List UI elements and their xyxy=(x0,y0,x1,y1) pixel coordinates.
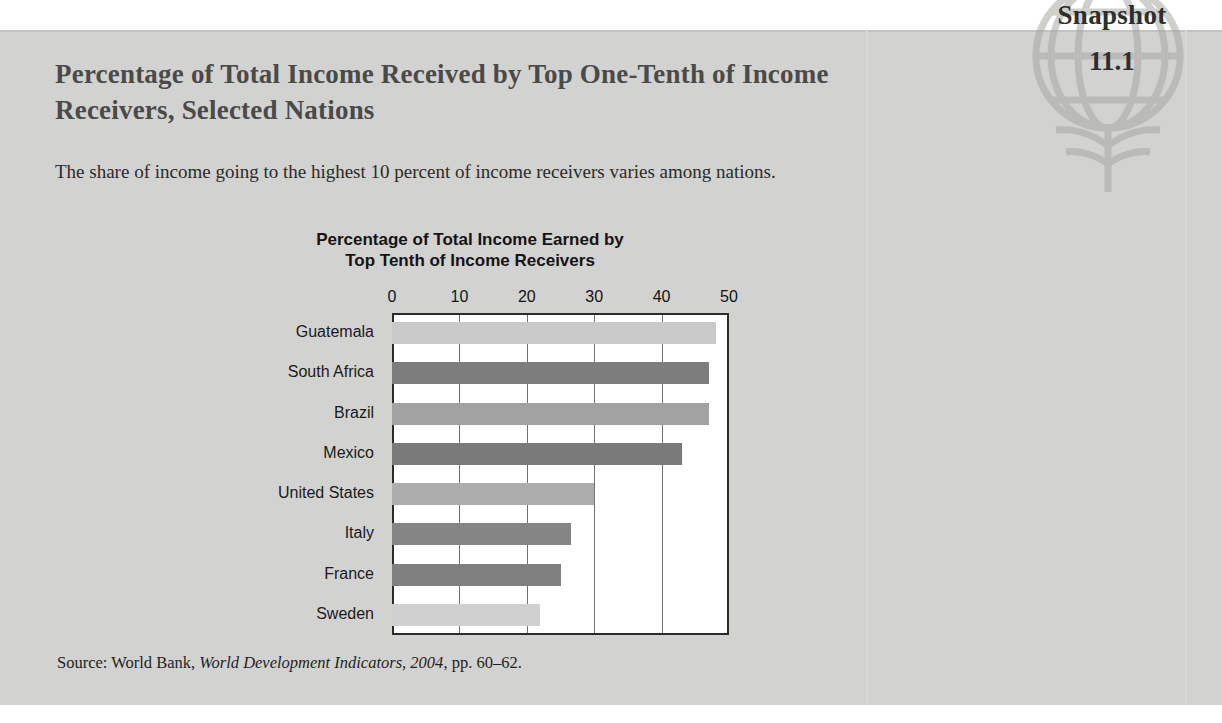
y-label-united-states: United States xyxy=(278,484,374,502)
bar-italy xyxy=(392,523,571,545)
bars-layer xyxy=(392,313,729,635)
bar-united-states xyxy=(392,483,594,505)
bar-chart: Percentage of Total Income Earned by Top… xyxy=(0,0,1222,723)
chart-title-line-2: Top Tenth of Income Receivers xyxy=(280,250,660,271)
x-tick-label-50: 50 xyxy=(720,288,738,306)
bar-guatemala xyxy=(392,322,716,344)
y-label-france: France xyxy=(324,565,374,583)
bar-sweden xyxy=(392,604,540,626)
bar-south-africa xyxy=(392,362,709,384)
x-tick-label-40: 40 xyxy=(653,288,671,306)
source-suffix: , pp. 60–62. xyxy=(443,653,521,672)
y-label-mexico: Mexico xyxy=(323,444,374,462)
chart-title: Percentage of Total Income Earned by Top… xyxy=(280,229,660,271)
y-label-brazil: Brazil xyxy=(334,404,374,422)
x-tick-label-20: 20 xyxy=(518,288,536,306)
y-label-guatemala: Guatemala xyxy=(296,323,374,341)
bar-brazil xyxy=(392,403,709,425)
x-tick-label-10: 10 xyxy=(450,288,468,306)
y-label-italy: Italy xyxy=(345,524,374,542)
source-note: Source: World Bank, World Development In… xyxy=(57,653,522,673)
x-tick-label-0: 0 xyxy=(388,288,397,306)
source-title: World Development Indicators, 2004 xyxy=(199,653,443,672)
bar-france xyxy=(392,564,561,586)
chart-title-line-1: Percentage of Total Income Earned by xyxy=(280,229,660,250)
y-label-sweden: Sweden xyxy=(316,605,374,623)
y-axis-category-labels: GuatemalaSouth AfricaBrazilMexicoUnited … xyxy=(190,313,384,635)
x-tick-label-30: 30 xyxy=(585,288,603,306)
y-label-south-africa: South Africa xyxy=(288,363,374,381)
source-prefix: Source: World Bank, xyxy=(57,653,199,672)
x-axis-tick-labels: 01020304050 xyxy=(392,288,729,310)
bar-mexico xyxy=(392,443,682,465)
